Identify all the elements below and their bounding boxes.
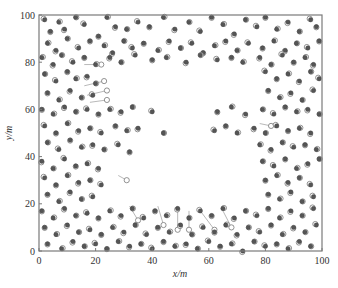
y-tick-label: 100 bbox=[20, 10, 35, 21]
node-marker bbox=[277, 95, 281, 99]
node-marker bbox=[167, 39, 171, 43]
node-marker bbox=[275, 27, 279, 31]
node-marker bbox=[119, 110, 123, 114]
node-marker bbox=[275, 242, 279, 246]
node-marker bbox=[51, 216, 55, 220]
y-tick-label: 80 bbox=[25, 57, 35, 68]
node-marker bbox=[59, 53, 63, 57]
node-marker bbox=[269, 147, 273, 151]
node-marker bbox=[306, 107, 310, 111]
node-marker bbox=[258, 143, 262, 147]
node-marker bbox=[266, 88, 270, 92]
node-marker bbox=[57, 20, 61, 24]
node-marker bbox=[127, 150, 131, 154]
node-marker bbox=[308, 18, 312, 22]
y-tick-label: 20 bbox=[25, 198, 35, 209]
node-marker bbox=[224, 223, 228, 227]
node-marker bbox=[62, 206, 66, 210]
node-marker bbox=[297, 29, 301, 33]
node-marker bbox=[40, 55, 44, 59]
node-marker bbox=[187, 216, 191, 220]
node-marker bbox=[150, 110, 154, 114]
node-marker bbox=[122, 39, 126, 43]
node-marker bbox=[167, 230, 171, 234]
node-marker bbox=[300, 199, 304, 203]
node-marker bbox=[133, 223, 137, 227]
node-marker bbox=[308, 131, 312, 135]
node-marker bbox=[314, 223, 318, 227]
node-marker bbox=[62, 105, 66, 109]
node-marker bbox=[243, 209, 247, 213]
node-marker bbox=[76, 46, 80, 50]
node-marker bbox=[71, 60, 75, 64]
estimate-marker bbox=[186, 227, 191, 232]
node-marker bbox=[178, 223, 182, 227]
node-marker bbox=[232, 32, 236, 36]
node-marker bbox=[252, 126, 256, 130]
node-marker bbox=[88, 228, 92, 232]
node-marker bbox=[277, 197, 281, 201]
node-marker bbox=[57, 199, 61, 203]
estimate-marker bbox=[124, 178, 129, 183]
node-marker bbox=[68, 138, 72, 142]
node-marker bbox=[292, 145, 296, 149]
node-marker bbox=[133, 53, 137, 57]
node-marker bbox=[82, 55, 86, 59]
node-marker bbox=[54, 79, 58, 83]
node-marker bbox=[102, 43, 106, 47]
node-marker bbox=[292, 225, 296, 229]
node-marker bbox=[74, 110, 78, 114]
node-marker bbox=[212, 230, 216, 234]
node-marker bbox=[85, 161, 89, 165]
node-marker bbox=[96, 34, 100, 38]
estimate-marker bbox=[104, 97, 109, 102]
node-marker bbox=[91, 195, 95, 199]
node-marker bbox=[102, 147, 106, 151]
node-marker bbox=[311, 88, 315, 92]
x-tick-label: 60 bbox=[204, 255, 214, 266]
node-marker bbox=[91, 93, 95, 97]
node-marker bbox=[258, 230, 262, 234]
node-marker bbox=[88, 126, 92, 130]
node-marker bbox=[65, 36, 69, 40]
node-marker bbox=[108, 55, 112, 59]
node-marker bbox=[241, 60, 245, 64]
node-marker bbox=[190, 232, 194, 236]
node-marker bbox=[283, 157, 287, 161]
node-marker bbox=[147, 25, 151, 29]
node-marker bbox=[45, 242, 49, 246]
node-marker bbox=[74, 77, 78, 81]
node-marker bbox=[113, 25, 117, 29]
node-marker bbox=[173, 244, 177, 248]
x-tick-label: 80 bbox=[260, 255, 270, 266]
node-marker bbox=[74, 213, 78, 217]
node-marker bbox=[311, 62, 315, 66]
node-marker bbox=[127, 244, 131, 248]
node-marker bbox=[91, 143, 95, 147]
node-marker bbox=[266, 206, 270, 210]
node-marker bbox=[297, 239, 301, 243]
node-marker bbox=[283, 48, 287, 52]
node-marker bbox=[139, 242, 143, 246]
node-marker bbox=[198, 209, 202, 213]
node-marker bbox=[215, 110, 219, 114]
node-marker bbox=[246, 225, 250, 229]
node-marker bbox=[161, 15, 165, 19]
node-marker bbox=[130, 46, 134, 50]
node-marker bbox=[308, 69, 312, 73]
node-marker bbox=[156, 225, 160, 229]
node-marker bbox=[190, 41, 194, 45]
node-marker bbox=[294, 110, 298, 114]
node-marker bbox=[122, 230, 126, 234]
node-marker bbox=[110, 51, 114, 55]
node-marker bbox=[93, 81, 97, 85]
node-marker bbox=[224, 39, 228, 43]
node-marker bbox=[175, 206, 179, 210]
node-marker bbox=[275, 173, 279, 177]
node-marker bbox=[108, 209, 112, 213]
node-marker bbox=[108, 107, 112, 111]
node-marker bbox=[280, 140, 284, 144]
node-marker bbox=[99, 183, 103, 187]
node-marker bbox=[289, 190, 293, 194]
node-marker bbox=[308, 183, 312, 187]
